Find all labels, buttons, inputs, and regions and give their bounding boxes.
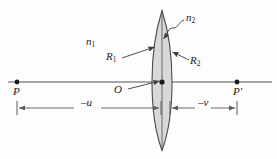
label-image-point: P′ — [233, 86, 242, 97]
label-refractive-index-n2: n2 — [186, 12, 195, 23]
r2-leader-line — [173, 52, 190, 60]
label-image-distance: –v — [198, 97, 208, 108]
optical-center-marker — [159, 79, 164, 84]
optics-thin-lens-figure: n1 n2 R1 R2 P P′ O –u –v — [0, 0, 277, 159]
object-point-marker — [15, 80, 20, 85]
label-radius-r2: R2 — [190, 55, 200, 66]
r1-leader-line — [122, 47, 155, 58]
label-object-point: P — [13, 86, 20, 97]
image-point-marker — [235, 80, 240, 85]
label-optical-center: O — [114, 84, 122, 95]
label-object-distance: –u — [81, 97, 92, 108]
label-radius-r1: R1 — [106, 51, 116, 62]
label-refractive-index-n1: n1 — [86, 36, 95, 47]
diagram-canvas — [0, 0, 277, 159]
